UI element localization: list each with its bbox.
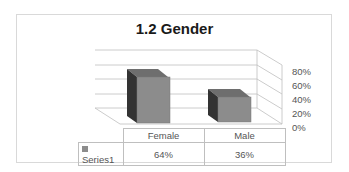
y-tick-60: 60% xyxy=(292,80,311,91)
data-table-header: Female Male xyxy=(79,129,286,143)
y-tick-80: 80% xyxy=(292,66,311,77)
legend-series1: Series1 xyxy=(79,143,124,166)
bar-male xyxy=(208,89,251,122)
header-female: Female xyxy=(123,129,204,143)
y-tick-20: 20% xyxy=(292,108,311,119)
value-male: 36% xyxy=(204,143,285,166)
gridlines xyxy=(95,50,282,124)
y-tick-40: 40% xyxy=(292,94,311,105)
floor xyxy=(95,108,282,124)
header-male: Male xyxy=(204,129,285,143)
data-table: Female Male Series1 64% 36% xyxy=(78,128,286,166)
legend-key-icon xyxy=(82,146,88,152)
bar-female xyxy=(127,69,170,123)
corner-cell xyxy=(79,129,124,143)
value-female: 64% xyxy=(123,143,204,166)
data-table-row: Series1 64% 36% xyxy=(79,143,286,166)
y-tick-0: 0% xyxy=(292,122,306,133)
